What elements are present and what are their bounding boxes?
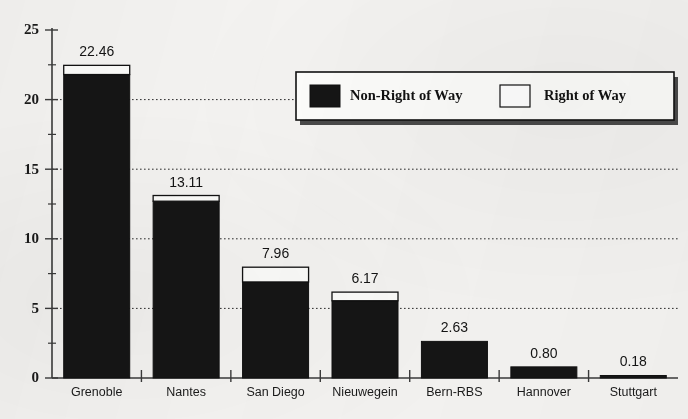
bar-value-label-5: 0.80 [530, 345, 557, 361]
bar-value-label-4: 2.63 [441, 319, 468, 335]
x-category-label-5: Hannover [517, 385, 571, 399]
x-category-label-2: San Diego [246, 385, 304, 399]
y-tick-label-5: 5 [32, 300, 40, 316]
bar-segment-non-right-of-way-1[interactable] [153, 201, 219, 378]
bar-segment-right-of-way-0[interactable] [64, 65, 130, 74]
bar-value-label-3: 6.17 [351, 270, 378, 286]
bar-segment-right-of-way-2[interactable] [243, 267, 309, 282]
legend-swatch-right-of-way [500, 85, 530, 107]
y-tick-label-0: 0 [32, 369, 40, 385]
bar-segment-right-of-way-1[interactable] [153, 196, 219, 202]
bar-segment-non-right-of-way-4[interactable] [421, 341, 487, 378]
y-tick-label-15: 15 [24, 161, 39, 177]
chart-canvas: 051015202522.46Grenoble13.11Nantes7.96Sa… [0, 0, 688, 419]
x-category-label-4: Bern-RBS [426, 385, 482, 399]
y-tick-label-10: 10 [24, 230, 39, 246]
x-category-label-0: Grenoble [71, 385, 122, 399]
y-tick-label-20: 20 [24, 91, 39, 107]
bar-segment-right-of-way-3[interactable] [332, 292, 398, 301]
bar-value-label-6: 0.18 [620, 353, 647, 369]
legend-label-non-right-of-way: Non-Right of Way [350, 87, 463, 103]
y-tick-label-25: 25 [24, 21, 39, 37]
x-category-label-3: Nieuwegein [332, 385, 397, 399]
bar-segment-non-right-of-way-0[interactable] [64, 75, 130, 378]
bar-segment-non-right-of-way-5[interactable] [511, 367, 577, 378]
legend-swatch-non-right-of-way [310, 85, 340, 107]
bar-segment-non-right-of-way-3[interactable] [332, 301, 398, 378]
legend-label-right-of-way: Right of Way [544, 87, 627, 103]
bar-segment-non-right-of-way-6[interactable] [600, 375, 666, 378]
bar-value-label-2: 7.96 [262, 245, 289, 261]
stacked-bar-chart: 051015202522.46Grenoble13.11Nantes7.96Sa… [0, 0, 688, 419]
bar-value-label-1: 13.11 [169, 174, 203, 190]
x-category-label-6: Stuttgart [610, 385, 658, 399]
bar-value-label-0: 22.46 [79, 43, 114, 59]
x-category-label-1: Nantes [166, 385, 206, 399]
bar-segment-non-right-of-way-2[interactable] [243, 282, 309, 378]
